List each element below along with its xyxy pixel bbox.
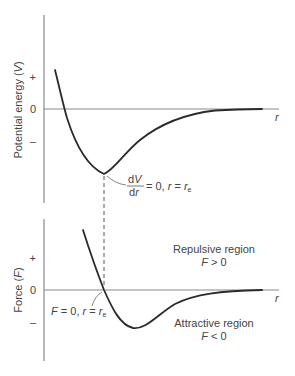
- bottom-tick-minus: –: [30, 316, 37, 328]
- top-tick-plus: +: [30, 71, 36, 83]
- bottom-tick-plus: +: [30, 252, 36, 264]
- bottom-annotation-f0: F = 0, r = re: [51, 305, 106, 318]
- repulsive-region-title: Repulsive region: [173, 243, 255, 255]
- top-tick-zero: 0: [30, 103, 36, 115]
- top-tick-minus: –: [30, 135, 37, 147]
- bottom-annotation-leader: [92, 292, 102, 306]
- svg-text:dr: dr: [129, 186, 140, 198]
- force-plot: + 0 – Force (F) r F = 0, r = re Repulsiv…: [12, 219, 280, 361]
- svg-text:= 0, r = re: = 0, r = re: [146, 180, 192, 193]
- repulsive-region-condition: F > 0: [201, 256, 226, 268]
- top-annotation-leader: [107, 176, 126, 185]
- top-annotation-dv-dr: dV dr = 0, r = re: [127, 173, 192, 198]
- bottom-y-axis-label: Force (F): [12, 267, 24, 312]
- bottom-x-axis-label: r: [275, 292, 280, 304]
- svg-text:dV: dV: [128, 173, 143, 185]
- top-x-axis-label: r: [275, 111, 280, 123]
- attractive-region-condition: F < 0: [201, 330, 226, 342]
- potential-energy-plot: + 0 – Potential energy (V) r dV dr = 0, …: [12, 15, 280, 203]
- bottom-tick-zero: 0: [30, 284, 36, 296]
- top-y-axis-label: Potential energy (V): [12, 61, 24, 158]
- potential-force-diagram: + 0 – Potential energy (V) r dV dr = 0, …: [0, 0, 295, 376]
- potential-energy-curve: [55, 70, 262, 174]
- attractive-region-title: Attractive region: [174, 317, 253, 329]
